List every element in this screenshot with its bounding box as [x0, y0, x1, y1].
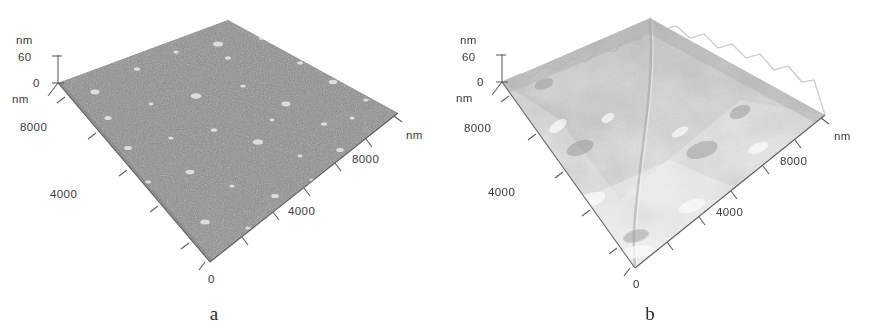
panel-b-right-tick-8000: 8000: [780, 155, 807, 167]
panel-a-left-tick-4000: 4000: [50, 188, 77, 200]
panel-b-z-unit-top: nm: [460, 34, 477, 46]
panel-b-surface: [480, 5, 850, 290]
panel-a-right-unit: nm: [406, 129, 423, 141]
panel-b-left-tick-4000: 4000: [488, 186, 515, 198]
panel-a-z-tick-60: 60: [18, 51, 32, 63]
panel-b: nm 60 0 nm 8000 4000 0 nm 8000 4000 b: [440, 0, 871, 332]
panel-a-left-tick-8000: 8000: [20, 121, 47, 133]
panel-a-origin-label: 0: [208, 273, 215, 285]
panel-a-surface: [40, 10, 420, 280]
panel-a-plot: nm 60 0 nm 8000 4000 0 nm 8000 4000 a: [0, 0, 440, 332]
panel-b-z-axis: [492, 54, 508, 95]
panel-a-z-unit-top: nm: [16, 34, 33, 46]
panel-b-plot: nm 60 0 nm 8000 4000 0 nm 8000 4000 b: [440, 0, 871, 332]
panel-a-right-tick-4000: 4000: [288, 205, 315, 217]
panel-b-caption: b: [645, 303, 655, 324]
panel-b-z-tick-60: 60: [462, 51, 476, 63]
panel-a: nm 60 0 nm 8000 4000 0 nm 8000 4000 a: [0, 0, 440, 332]
panel-b-z-unit-bottom: nm: [456, 92, 473, 104]
panel-b-z-tick-0: 0: [477, 76, 484, 88]
panel-a-right-tick-8000: 8000: [352, 153, 379, 165]
panel-b-left-tick-8000: 8000: [464, 122, 491, 134]
panel-b-right-tick-4000: 4000: [716, 206, 743, 218]
afm-figure: nm 60 0 nm 8000 4000 0 nm 8000 4000 a: [0, 0, 871, 332]
panel-b-right-unit: nm: [834, 130, 851, 142]
panel-a-z-axis: [48, 55, 64, 96]
panel-a-z-tick-0: 0: [33, 77, 40, 89]
panel-a-z-unit-bottom: nm: [12, 93, 29, 105]
panel-b-origin-label: 0: [633, 278, 640, 290]
panel-a-caption: a: [210, 303, 219, 324]
